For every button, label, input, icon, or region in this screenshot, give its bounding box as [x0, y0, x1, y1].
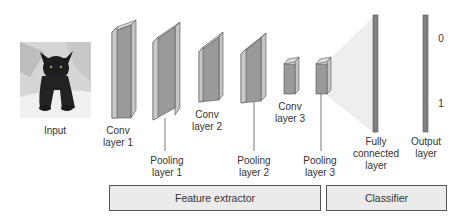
pooling-layer-2-label: Pooling layer 2	[232, 155, 276, 179]
classifier-section: Classifier	[326, 185, 447, 211]
conv-layer-2-label: Conv layer 2	[187, 109, 227, 133]
pooling-layer-3-block	[316, 57, 331, 94]
fully-connected-layer-label: Fully connected layer	[348, 136, 404, 172]
feature-extractor-section: Feature extractor	[109, 185, 321, 211]
pooling-layer-1-block	[153, 22, 180, 120]
pooling-layer-1-label: Pooling layer 1	[145, 155, 189, 179]
pooling-layer-2-block	[241, 33, 266, 103]
conv-layer-1-label: Conv layer 1	[98, 125, 138, 149]
conv-layer-3-label: Conv layer 3	[270, 101, 310, 125]
fully-connected-fan	[326, 16, 375, 133]
fully-connected-bar	[373, 15, 378, 132]
output-value-1: 1	[435, 98, 447, 110]
conv-layer-2-block	[199, 32, 223, 102]
conv-layer-1-block	[112, 20, 136, 118]
output-value-0: 0	[435, 33, 447, 45]
output-layer-label: Output layer	[406, 136, 446, 160]
conv-layer-3-block	[284, 57, 299, 94]
output-layer-bar	[423, 15, 428, 132]
pooling-layer-3-label: Pooling layer 3	[298, 155, 342, 179]
input-cat-image	[20, 42, 91, 118]
input-label: Input	[30, 125, 80, 137]
